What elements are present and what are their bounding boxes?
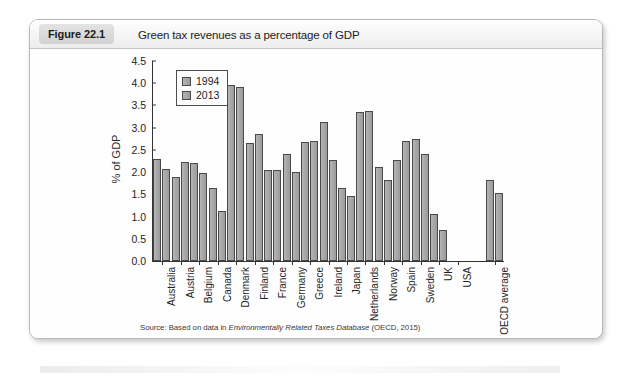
x-axis-tick-label: Netherlands	[369, 267, 380, 321]
x-axis-tick-mark	[329, 261, 330, 265]
bar-group	[467, 61, 485, 261]
bar-group	[375, 61, 393, 261]
bar	[310, 141, 318, 261]
legend-label: 2013	[196, 89, 219, 101]
x-axis-tick-mark	[273, 261, 274, 265]
bar-group	[227, 61, 245, 261]
bar-chart: % of GDP 0.00.51.01.52.02.53.03.54.04.5 …	[118, 61, 538, 339]
bar	[199, 173, 207, 261]
page-scan-bleed-top	[225, 2, 415, 11]
x-axis-tick-label: Belgium	[203, 267, 214, 303]
bar-group	[338, 61, 356, 261]
bar-group	[320, 61, 338, 261]
x-axis-tick-mark	[439, 261, 440, 265]
source-note: Source: Based on data in Environmentally…	[140, 323, 420, 332]
bar	[218, 211, 226, 261]
y-axis-tick-label: 1.0	[131, 211, 146, 223]
x-axis-tick-mark	[255, 261, 256, 265]
bar	[172, 177, 180, 261]
figure-panel: Figure 22.1 Green tax revenues as a perc…	[29, 19, 603, 339]
x-axis-tick-label: Ireland	[333, 267, 344, 298]
x-axis-tick-label: Japan	[351, 267, 362, 294]
bar-group	[283, 61, 301, 261]
x-axis-tick-label: Sweden	[425, 267, 436, 303]
bar	[495, 193, 503, 261]
x-axis-tick-label: Australia	[166, 267, 177, 306]
bar	[486, 180, 494, 261]
bar	[264, 170, 272, 261]
bar	[320, 122, 328, 261]
x-axis-tick-mark	[162, 261, 163, 265]
bar	[190, 163, 198, 261]
bar	[347, 196, 355, 261]
y-axis-tick-label: 2.0	[131, 166, 146, 178]
y-axis-tick-label: 3.5	[131, 99, 146, 111]
x-axis-tick-mark	[365, 261, 366, 265]
legend-entry: 2013	[182, 88, 219, 102]
y-axis-ticks: 0.00.51.01.52.02.53.03.54.04.5	[118, 61, 152, 261]
bar	[338, 188, 346, 261]
x-axis-tick-label: Greece	[314, 267, 325, 300]
x-axis-tick-mark	[181, 261, 182, 265]
bar-group	[449, 61, 467, 261]
figure-caption: Green tax revenues as a percentage of GD…	[138, 20, 359, 49]
x-axis-tick-mark	[218, 261, 219, 265]
bar-group	[486, 61, 504, 261]
x-axis-tick-label: Canada	[222, 267, 233, 302]
bar	[301, 142, 309, 261]
x-axis-tick-mark	[347, 261, 348, 265]
source-suffix: (OECD, 2015)	[371, 323, 420, 332]
y-axis-tick-label: 3.0	[131, 122, 146, 134]
x-axis-tick-label: UK	[443, 267, 454, 281]
bar	[375, 167, 383, 261]
x-axis-tick-label: Spain	[406, 267, 417, 293]
y-axis-tick-label: 0.5	[131, 233, 146, 245]
x-axis-tick-label: Germany	[296, 267, 307, 308]
x-axis-tick-mark	[292, 261, 293, 265]
bar-group	[153, 61, 171, 261]
x-axis-tick-mark	[199, 261, 200, 265]
bar	[412, 139, 420, 261]
bar-group	[246, 61, 264, 261]
bar-group	[430, 61, 448, 261]
bar	[439, 230, 447, 261]
legend-swatch-icon	[182, 91, 191, 100]
x-axis-tick-mark	[384, 261, 385, 265]
chart-legend: 1994 2013	[176, 70, 228, 106]
source-prefix: Source: Based on data in	[140, 323, 226, 332]
x-axis-tick-mark	[310, 261, 311, 265]
x-axis-tick-label: Finland	[259, 267, 270, 300]
bar-group	[412, 61, 430, 261]
bar	[181, 162, 189, 261]
x-axis-tick-label: Austria	[185, 267, 196, 298]
bar	[209, 188, 217, 261]
y-axis-tick-label: 4.5	[131, 55, 146, 67]
chart-plot-area: % of GDP 0.00.51.01.52.02.53.03.54.04.5 …	[30, 49, 602, 339]
figure-number-badge: Figure 22.1	[39, 24, 114, 44]
x-axis-tick-label: Denmark	[240, 267, 251, 308]
source-title: Environmentally Related Taxes Database	[228, 323, 369, 332]
bar	[329, 160, 337, 261]
legend-label: 1994	[196, 75, 219, 87]
x-axis-tick-mark	[495, 261, 496, 265]
y-axis-tick-label: 4.0	[131, 77, 146, 89]
bar-group	[264, 61, 282, 261]
x-axis-tick-label: Norway	[388, 267, 399, 301]
x-axis-tick-mark	[458, 261, 459, 265]
bar	[236, 87, 244, 261]
bar	[393, 160, 401, 261]
x-axis-tick-label: USA	[462, 267, 473, 288]
y-axis-tick-label: 0.0	[131, 255, 146, 267]
bar	[421, 154, 429, 261]
bar-group	[356, 61, 374, 261]
bar	[430, 214, 438, 261]
bar	[227, 85, 235, 261]
figure-header: Figure 22.1 Green tax revenues as a perc…	[30, 20, 602, 49]
legend-swatch-icon	[182, 77, 191, 86]
bar	[273, 170, 281, 261]
x-axis-tick-mark	[421, 261, 422, 265]
bar	[246, 143, 254, 261]
y-axis-tick-label: 2.5	[131, 144, 146, 156]
legend-entry: 1994	[182, 74, 219, 88]
x-axis-tick-label: France	[277, 267, 288, 298]
